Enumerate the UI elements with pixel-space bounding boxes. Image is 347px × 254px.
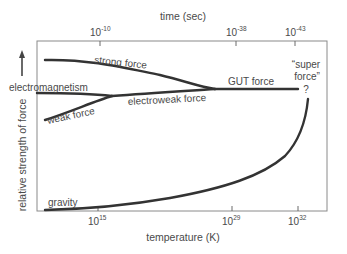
weak-force-label: weak force	[45, 105, 96, 126]
gravity-label: gravity	[48, 197, 77, 208]
top-tick-label-2: 10-38	[226, 25, 247, 38]
bottom-tick-label-3: 1032	[288, 214, 307, 227]
bottom-tick-label-1: 1015	[88, 214, 107, 227]
top-axis-title: time (sec)	[160, 10, 206, 22]
bottom-tick-label-2: 1029	[222, 214, 241, 227]
super-force-question-mark: ?	[303, 84, 309, 95]
up-arrow-icon	[19, 50, 25, 76]
top-tick-label-1: 10-10	[90, 25, 111, 38]
y-axis-title: relative strength of force	[16, 99, 28, 212]
force-unification-diagram: time (sec) 10-10 10-38 10-43 1015 1029 1…	[0, 0, 347, 254]
bottom-axis-title: temperature (K)	[146, 231, 220, 243]
electromagnetism-curve	[37, 93, 112, 96]
top-tick-label-3: 10-43	[285, 25, 306, 38]
super-force-label-line2: force”	[294, 71, 320, 82]
super-force-label-line1: “super	[292, 59, 321, 70]
plot-frame	[37, 41, 327, 211]
gut-force-label: GUT force	[228, 76, 274, 87]
electromagnetism-label: electromagnetism	[9, 82, 88, 93]
